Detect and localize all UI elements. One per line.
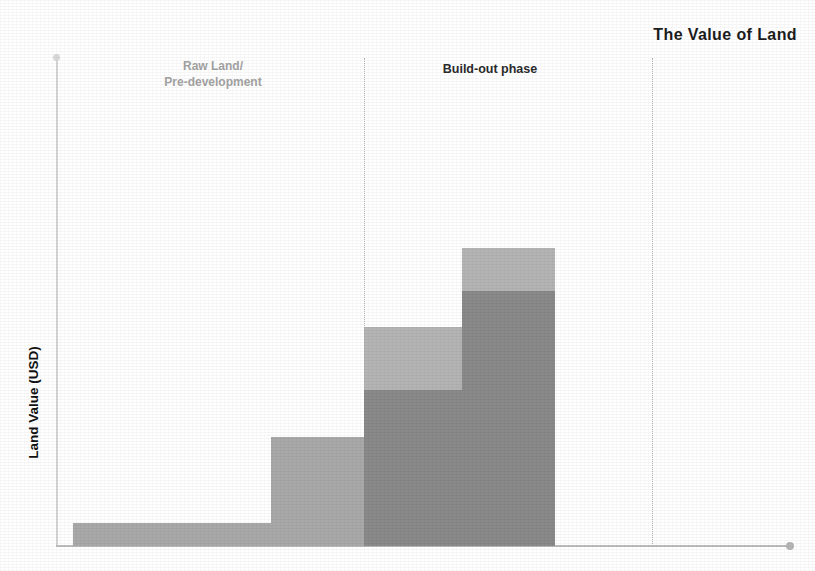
chart-canvas: The Value of Land Raw Land/ Pre-developm… [0,0,815,571]
bar-3-base-segment [364,390,462,546]
phase-label-build-out: Build-out phase [400,61,580,77]
bar-2 [271,437,364,546]
bar-4-base-segment [462,291,555,546]
phase-label-raw-land: Raw Land/ Pre-development [133,59,293,90]
chart-title: The Value of Land [653,26,797,44]
y-axis-line [56,57,58,547]
bar-2-base-segment [271,437,364,546]
bar-4-light-segment [462,248,555,291]
x-axis-end-cap [786,542,794,550]
y-axis-title: Land Value (USD) [26,318,41,488]
bar-3 [364,327,462,546]
y-axis-end-cap [53,54,60,61]
phase-divider-2 [652,58,654,546]
bar-1 [73,523,271,546]
bar-3-light-segment [364,327,462,390]
bar-4 [462,248,555,546]
bar-1-base-segment [73,523,271,546]
